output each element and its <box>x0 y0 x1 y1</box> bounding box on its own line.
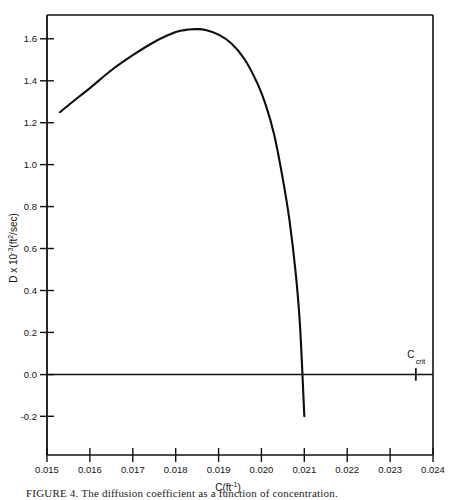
y-tick-label: 0.2 <box>24 327 37 338</box>
x-tick-label: 0.022 <box>335 464 359 475</box>
y-tick-label: 0.0 <box>24 369 37 380</box>
x-tick-label: 0.023 <box>378 464 402 475</box>
y-tick-label: 1.4 <box>24 75 37 86</box>
y-axis-title: D x 10-3(ft2/sec) <box>7 213 19 283</box>
x-tick-label: 0.018 <box>164 464 188 475</box>
y-tick-label: 0.8 <box>24 201 37 212</box>
x-tick-label: 0.017 <box>121 464 145 475</box>
y-tick-label: 0.4 <box>24 285 37 296</box>
y-tick-label: 1.2 <box>24 117 37 128</box>
x-tick-label: 0.020 <box>250 464 274 475</box>
x-tick-label: 0.019 <box>207 464 231 475</box>
data-curve <box>60 29 304 416</box>
y-tick-label: 1.0 <box>24 159 37 170</box>
x-tick-label: 0.015 <box>35 464 59 475</box>
x-tick-label: 0.016 <box>78 464 102 475</box>
y-tick-label: 1.6 <box>24 33 37 44</box>
x-tick-label: 0.021 <box>292 464 316 475</box>
chart-svg: 1.6 1.4 1.2 1.0 0.8 0.6 0.4 0.2 0.0 -0.2 <box>0 0 457 500</box>
figure-container: 1.6 1.4 1.2 1.0 0.8 0.6 0.4 0.2 0.0 -0.2 <box>0 0 457 500</box>
x-axis-tick-labels: 0.015 0.016 0.017 0.018 0.019 0.020 0.02… <box>35 464 445 475</box>
plot-frame <box>47 15 433 455</box>
svg-text:D x 10-3(ft2/sec): D x 10-3(ft2/sec) <box>7 213 19 283</box>
c-crit-annotation: C crit <box>407 349 425 381</box>
c-crit-label-sub: crit <box>416 358 425 365</box>
x-tick-label: 0.024 <box>421 464 445 475</box>
y-tick-label: -0.2 <box>21 411 37 422</box>
y-axis-tick-labels: 1.6 1.4 1.2 1.0 0.8 0.6 0.4 0.2 0.0 -0.2 <box>21 33 37 422</box>
c-crit-label-main: C <box>407 349 414 360</box>
figure-caption: FIGURE 4. The diffusion coefficient as a… <box>26 487 446 499</box>
y-tick-label: 0.6 <box>24 243 37 254</box>
